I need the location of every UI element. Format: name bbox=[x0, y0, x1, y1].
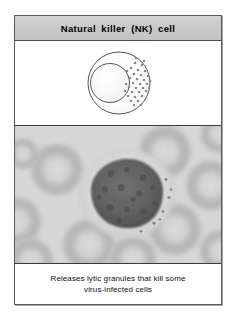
caption-line-1: Releases lytic granules that kill some bbox=[51, 274, 186, 283]
nucleus-icon bbox=[91, 64, 130, 103]
caption-line-2: virus-infected cells bbox=[84, 285, 152, 294]
caption-panel: Releases lytic granules that kill some v… bbox=[15, 264, 221, 304]
figure-caption: Releases lytic granules that kill some v… bbox=[51, 273, 186, 295]
micrograph-panel bbox=[15, 126, 221, 264]
figure-header: Natural killer (NK) cell bbox=[15, 16, 221, 41]
nk-cell-diagram bbox=[15, 41, 221, 126]
blood-smear-micrograph bbox=[15, 126, 221, 263]
figure-card: Natural killer (NK) cell bbox=[14, 15, 222, 305]
cell-diagram-panel bbox=[15, 41, 221, 126]
page-title: Natural killer (NK) cell bbox=[61, 23, 176, 34]
film-grain bbox=[15, 126, 221, 263]
